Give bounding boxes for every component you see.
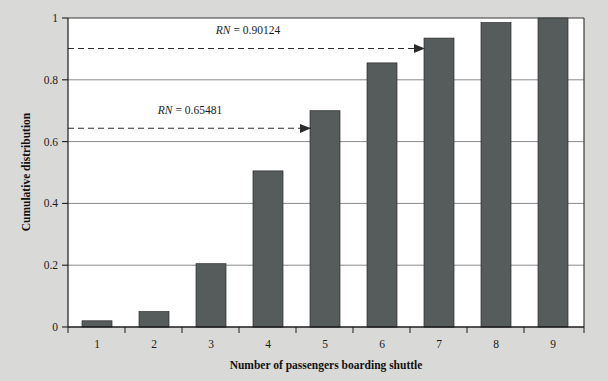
annotation-rn-low-value: 0.65481 [185,104,223,116]
y-tick-label-0.6: 0.6 [44,136,59,148]
x-tick-label-9: 9 [550,338,556,350]
annotation-rn-high-equals: = [231,24,243,36]
bar-2 [139,312,169,328]
cumulative-distribution-chart: RN = 0.90124 RN = 0.65481 0 0.2 0.4 [0,0,608,381]
bar-1 [82,321,112,327]
y-tick-label-0.8: 0.8 [44,74,59,86]
y-axis-title: Cumulative distribution [20,112,32,231]
x-axis-title: Number of passengers boarding shuttle [230,359,423,372]
annotation-rn-high-symbol: RN [215,24,232,36]
x-tick-label-4: 4 [265,338,271,350]
annotation-rn-low-equals: = [173,104,185,116]
annotation-rn-low-symbol: RN [157,104,174,116]
x-tick-label-3: 3 [208,338,214,350]
y-tick-label-0: 0 [52,321,58,333]
bar-3 [196,264,226,327]
bar-5 [310,111,340,327]
y-tick-label-1: 1 [52,12,58,24]
chart-figure: RN = 0.90124 RN = 0.65481 0 0.2 0.4 [0,0,608,381]
annotation-rn-high-value: 0.90124 [243,24,281,36]
x-tick-label-1: 1 [94,338,100,350]
bar-9 [538,18,568,327]
bar-8 [481,23,511,328]
bar-7 [424,38,454,327]
x-tick-label-8: 8 [493,338,499,350]
x-tick-label-7: 7 [436,338,442,350]
y-tick-label-0.2: 0.2 [44,259,59,271]
y-tick-label-0.4: 0.4 [44,197,59,209]
bar-6 [367,63,397,327]
annotation-rn-low-label: RN = 0.65481 [157,104,223,116]
annotation-rn-high-label: RN = 0.90124 [215,24,281,36]
bar-4 [253,171,283,327]
x-tick-label-2: 2 [151,338,157,350]
x-tick-label-6: 6 [379,338,385,350]
x-tick-label-5: 5 [322,338,328,350]
